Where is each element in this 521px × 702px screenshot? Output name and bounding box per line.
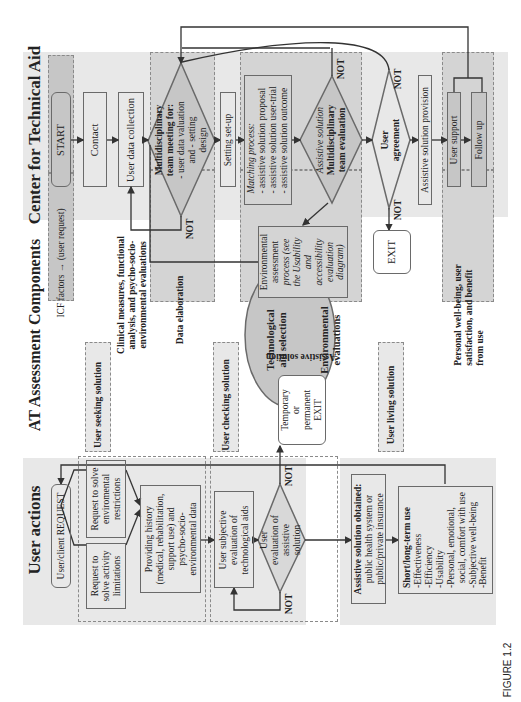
icf-factors-label: ICF factors → (user request) — [50, 225, 72, 300]
tech-aid-selection-label: Technological aid selection — [262, 300, 292, 380]
temporary-exit-node: Temporary or permanent EXIT — [278, 375, 326, 445]
follow-up-node: Follow up — [471, 92, 487, 187]
not-label-user-bottom: NOT — [282, 590, 296, 618]
figure-label: FIGURE 1.2 — [500, 640, 516, 700]
solution-provision-node: Assistive solution provision — [418, 75, 432, 205]
environmental-process-node: Environmental assessment process (see th… — [258, 226, 348, 298]
not-label-agreement-top: NOT — [391, 65, 405, 93]
setting-setup-node: Setting set-up — [220, 92, 236, 187]
not-label-agreement-bottom: NOT — [391, 196, 405, 224]
activity-request-node: Request to solve activity limitations — [86, 543, 126, 609]
exit-node: EXIT — [373, 230, 411, 274]
not-label-meeting: NOT — [183, 215, 197, 243]
not-label-evaluation: NOT — [334, 55, 348, 83]
user-request-node: User/client REQUEST — [51, 484, 71, 588]
stage-checking-label: User checking solution — [213, 360, 239, 450]
team-evaluation-decision: Assistive solution Multidisciplinary tea… — [302, 85, 360, 195]
data-elaboration-label: Data elaboration — [170, 280, 190, 340]
clinical-measures-label: Clinical measures, functional analysis, … — [112, 250, 152, 340]
stage-living-label: User living solution — [378, 360, 404, 450]
environmental-evaluations-label: Environmental evaluations — [316, 300, 346, 380]
user-evaluation-decision: User evaluation of assistive solution — [260, 500, 302, 580]
long-term-use-node: Short/long-term use -Effectiveness -Effi… — [398, 486, 493, 594]
solution-obtained-node: Assistive solution obtained: public heal… — [351, 474, 386, 604]
stage-seeking-label: User seeking solution — [85, 360, 111, 450]
user-agreement-decision: User agreement — [374, 95, 408, 185]
assistive-solution-label: Assistive solution — [242, 350, 360, 364]
matching-process-node: Matching process: - assistive solution p… — [244, 75, 292, 205]
subjective-evaluation-node: User subjective evaluation of technologi… — [214, 491, 254, 588]
history-node: Providing history (medical, rehabilitati… — [140, 485, 201, 593]
not-label-user-top: NOT — [282, 462, 296, 490]
personal-wellbeing-label: Personal well-being, user satisfaction, … — [446, 260, 492, 370]
team-meeting-decision: Multidisciplinary team meeting for: - us… — [150, 70, 212, 210]
environmental-request-node: Request to solve enviromental restrictio… — [86, 460, 126, 538]
user-support-node: User support — [447, 92, 461, 187]
